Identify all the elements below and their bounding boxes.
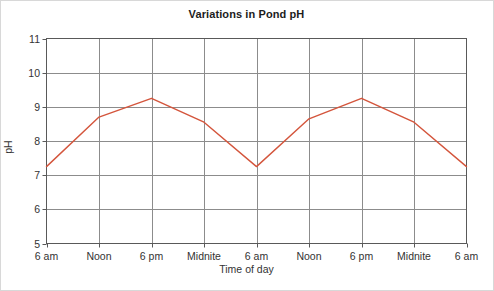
y-tick-label: 11: [14, 33, 40, 45]
x-tick-label: 6 am: [35, 250, 58, 262]
y-tick-label: 7: [14, 169, 40, 181]
x-tick-label: 6 pm: [350, 250, 373, 262]
x-tick-label: 6 am: [455, 250, 478, 262]
ph-data-line: [47, 98, 467, 166]
y-tick-label: 5: [14, 238, 40, 250]
y-tick-label: 9: [14, 101, 40, 113]
horizontal-gridlines: [47, 74, 467, 210]
x-tick-label: 6 am: [245, 250, 268, 262]
y-tick-label: 10: [14, 67, 40, 79]
y-tick-label: 8: [14, 135, 40, 147]
x-tick-label: Noon: [296, 250, 321, 262]
x-tick-label: Noon: [86, 250, 111, 262]
y-tick-label: 6: [14, 203, 40, 215]
x-tick-label: 6 pm: [140, 250, 163, 262]
axis-tick-marks: [43, 40, 468, 248]
x-tick-label: Midnite: [187, 250, 221, 262]
x-tick-label: Midnite: [397, 250, 431, 262]
